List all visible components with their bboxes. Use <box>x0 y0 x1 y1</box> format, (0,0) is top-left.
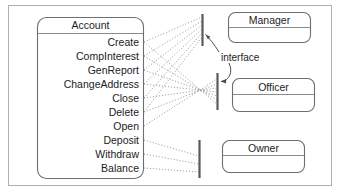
diagram-svg: Account Create CompInterest GenReport Ch… <box>0 0 342 196</box>
account-member-changeaddress[interactable]: ChangeAddress <box>64 78 139 90</box>
class-box-owner[interactable]: Owner <box>223 141 305 173</box>
class-box-manager[interactable]: Manager <box>229 13 311 43</box>
account-member-delete[interactable]: Delete <box>109 106 140 118</box>
account-member-genreport[interactable]: GenReport <box>88 64 139 76</box>
account-member-open[interactable]: Open <box>113 120 139 132</box>
interface-annotation-label: interface <box>221 52 260 63</box>
account-member-withdraw[interactable]: Withdraw <box>95 148 139 160</box>
account-member-compinterest[interactable]: CompInterest <box>76 50 139 62</box>
officer-class-title: Officer <box>258 81 289 93</box>
owner-class-title: Owner <box>248 142 279 154</box>
manager-class-title: Manager <box>249 14 291 26</box>
account-member-deposit[interactable]: Deposit <box>103 134 139 146</box>
account-class-title: Account <box>72 19 110 31</box>
account-member-close[interactable]: Close <box>112 92 139 104</box>
account-member-create[interactable]: Create <box>107 36 139 48</box>
class-box-account[interactable]: Account Create CompInterest GenReport Ch… <box>38 18 144 179</box>
class-box-officer[interactable]: Officer <box>233 79 315 112</box>
account-member-balance[interactable]: Balance <box>101 162 139 174</box>
diagram-canvas: Account Create CompInterest GenReport Ch… <box>0 0 342 196</box>
